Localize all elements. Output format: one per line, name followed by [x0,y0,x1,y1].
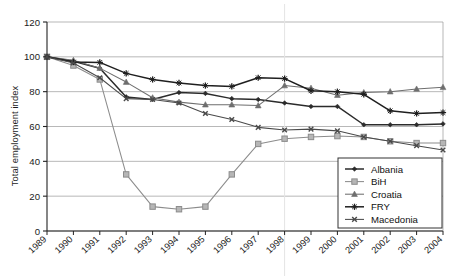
x-axis-ticks: 1989199019911992199319941995199619971998… [26,231,444,256]
x-tick-label: 2004 [422,234,444,255]
x-tick-label: 1993 [132,234,154,255]
x-tick-label: 1991 [79,234,101,255]
y-tick-label: 40 [29,156,40,167]
legend-label: Albania [371,164,404,175]
x-tick-label: 1997 [238,234,260,255]
x-tick-label: 1992 [106,234,128,255]
x-tick-label: 1989 [26,234,48,255]
x-tick-label: 2001 [343,234,365,255]
y-tick-label: 80 [29,86,40,97]
y-tick-label: 0 [35,226,40,237]
x-tick-label: 2003 [396,234,418,255]
x-tick-label: 1995 [185,234,207,255]
y-tick-label: 100 [24,51,40,62]
series-macedonia [45,55,446,153]
legend-label: Macedonia [371,214,419,225]
y-axis-ticks: 020406080100120 [24,17,47,237]
x-tick-label: 2000 [317,234,339,255]
x-tick-label: 2002 [370,234,392,255]
chart-legend: AlbaniaBiHCroatiaFRYMacedonia [338,158,442,228]
series-albania [45,55,446,128]
x-tick-label: 1996 [211,234,233,255]
legend-label: BiH [371,176,387,187]
figure-container: Total employment index 020406080100120 1… [0,0,455,276]
series-fry [44,54,446,117]
legend-label: Croatia [371,189,403,200]
y-tick-label: 20 [29,191,40,202]
employment-index-line-chart: 020406080100120 198919901991199219931994… [0,0,455,276]
x-tick-label: 1999 [290,234,312,255]
y-tick-label: 60 [29,121,40,132]
y-tick-label: 120 [24,17,40,28]
x-tick-label: 1990 [53,234,75,255]
x-tick-label: 1998 [264,234,286,255]
legend-label: FRY [371,201,391,212]
x-tick-label: 1994 [158,234,180,255]
